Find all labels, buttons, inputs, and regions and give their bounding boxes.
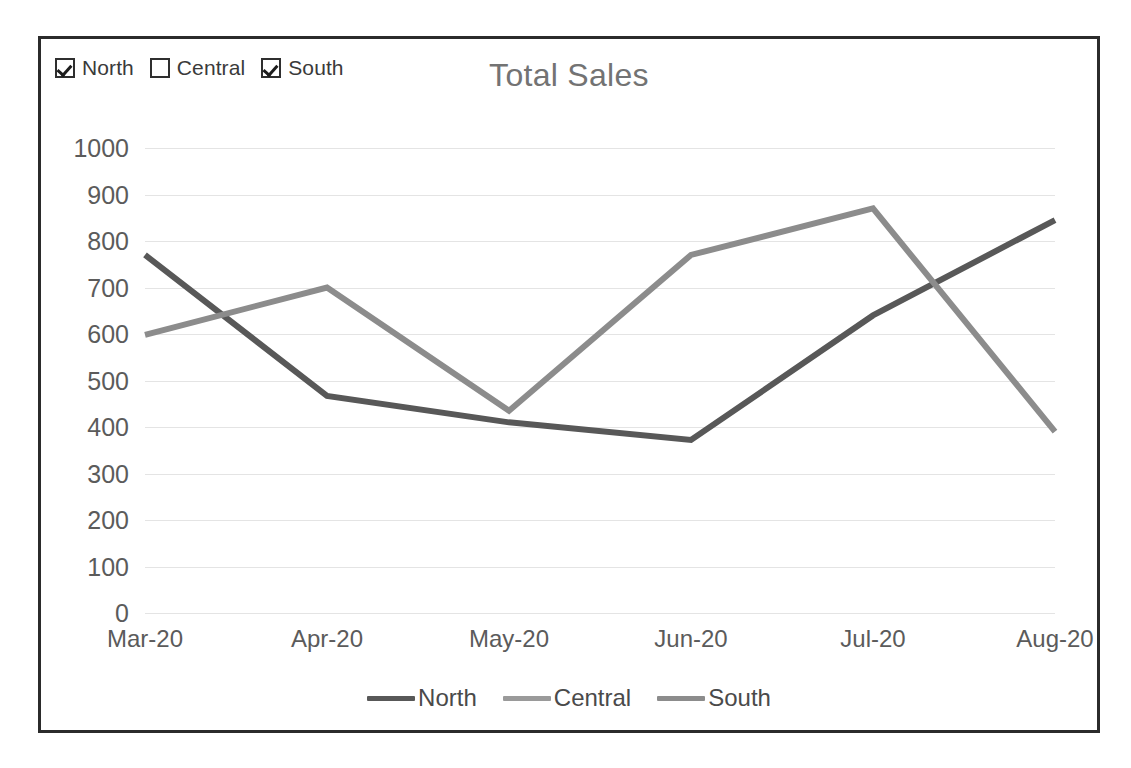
legend-swatch-icon — [367, 696, 415, 701]
y-axis-tick-label: 0 — [115, 599, 129, 628]
y-axis-tick-label: 400 — [87, 413, 129, 442]
x-axis: Mar-20Apr-20May-20Jun-20Jul-20Aug-20 — [145, 625, 1055, 665]
legend-swatch-icon — [657, 696, 705, 701]
x-axis-tick-label: Mar-20 — [107, 625, 183, 653]
series-lines — [145, 148, 1055, 613]
x-axis-tick-label: Jul-20 — [840, 625, 905, 653]
chart-title: Total Sales — [41, 57, 1097, 94]
x-axis-tick-label: Aug-20 — [1016, 625, 1093, 653]
y-axis-tick-label: 100 — [87, 552, 129, 581]
y-axis-tick-label: 200 — [87, 506, 129, 535]
x-axis-tick-label: May-20 — [469, 625, 549, 653]
gridline — [145, 613, 1055, 614]
x-axis-tick-label: Apr-20 — [291, 625, 363, 653]
legend-entry-north[interactable]: North — [367, 684, 477, 712]
chart-frame: NorthCentralSouth Total Sales 1000900800… — [38, 36, 1100, 733]
y-axis-tick-label: 1000 — [73, 134, 129, 163]
chart-legend: NorthCentralSouth — [41, 684, 1097, 712]
y-axis-tick-label: 700 — [87, 273, 129, 302]
series-line-south — [145, 208, 1055, 431]
legend-label: North — [418, 684, 477, 712]
y-axis-tick-label: 900 — [87, 180, 129, 209]
legend-entry-central[interactable]: Central — [503, 684, 631, 712]
legend-swatch-icon — [503, 696, 551, 701]
y-axis-tick-label: 800 — [87, 227, 129, 256]
legend-entry-south[interactable]: South — [657, 684, 771, 712]
y-axis: 10009008007006005004003002001000 — [41, 148, 137, 613]
plot-area — [145, 148, 1055, 613]
x-axis-tick-label: Jun-20 — [654, 625, 727, 653]
y-axis-tick-label: 600 — [87, 320, 129, 349]
legend-label: South — [708, 684, 771, 712]
legend-label: Central — [554, 684, 631, 712]
y-axis-tick-label: 300 — [87, 459, 129, 488]
y-axis-tick-label: 500 — [87, 366, 129, 395]
